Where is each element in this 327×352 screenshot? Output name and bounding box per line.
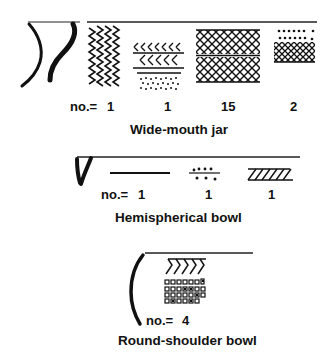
motif-oblique-hatch [248,169,293,180]
round-shoulder-profile [131,255,143,324]
hemispherical-count-motif-1: 1 [138,188,145,202]
pottery-illustration [0,0,327,352]
round-shoulder-count-prefix: no.= [146,314,173,328]
hemispherical-bowl-group [77,157,300,184]
motif-line-dots [189,168,220,181]
jar-count-motif-1: 1 [107,100,114,114]
hemispherical-count-motif-3: 1 [268,188,275,202]
motif-dots-cross-hatch [274,30,315,62]
motif-chevrons [166,259,206,274]
round-shoulder-count-motif-1: 4 [182,314,189,328]
jar-group-title: Wide-mouth jar [130,122,228,137]
motif-vertical-zigzag [89,26,119,86]
motif-punctate [140,77,179,90]
jar-count-motif-2: 1 [164,100,171,114]
hemispherical-profile-inner [81,158,91,184]
hemispherical-count-prefix: no.= [101,188,128,202]
jar-count-motif-4: 2 [290,100,297,114]
motif-cross-hatch [196,30,260,82]
jar-count-motif-3: 15 [221,100,235,114]
jar-profile-outer [22,24,41,86]
wide-mouth-jar-group [22,22,317,90]
round-shoulder-group-title: Round-shoulder bowl [118,333,257,348]
motif-chevron-bands [133,43,184,73]
hemispherical-profile-outer [77,159,80,183]
hemispherical-count-motif-2: 1 [205,188,212,202]
jar-profile-wall [50,24,75,80]
motif-stamped-squares [165,279,205,303]
jar-count-prefix: no.= [70,100,97,114]
hemispherical-group-title: Hemispherical bowl [115,210,242,225]
